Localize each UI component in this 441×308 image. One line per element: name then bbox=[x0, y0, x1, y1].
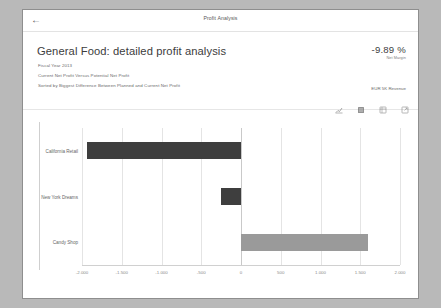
y-axis-line bbox=[39, 122, 40, 270]
sort-icon[interactable] bbox=[335, 106, 343, 114]
kpi-revenue: EUR 5K Revenue bbox=[371, 86, 406, 91]
kpi-net-margin: -9.89 % Net Margin bbox=[372, 44, 406, 60]
category-label: New York Dreams bbox=[41, 194, 78, 199]
report-page: ← Profit Analysis General Food: detailed… bbox=[22, 9, 419, 299]
fullscreen-icon[interactable] bbox=[401, 106, 409, 114]
x-tick-label: -2.000 bbox=[76, 270, 88, 275]
x-tick-label: 0 bbox=[240, 270, 242, 275]
x-tick-label: 2.000 bbox=[395, 270, 406, 275]
window-title: Profit Analysis bbox=[23, 15, 418, 21]
kpi-label: Net Margin bbox=[372, 56, 406, 60]
x-tick-label: -1.500 bbox=[116, 270, 128, 275]
kpi-value: -9.89 % bbox=[372, 44, 406, 55]
x-tick-label: 1.500 bbox=[355, 270, 366, 275]
subtitle-fiscal-year: Fiscal Year 2013 bbox=[38, 63, 72, 68]
bar[interactable] bbox=[241, 234, 368, 251]
x-tick-label: 500 bbox=[277, 270, 284, 275]
report-header: General Food: detailed profit analysis F… bbox=[23, 32, 418, 110]
title-bar: ← Profit Analysis bbox=[23, 10, 418, 32]
bar[interactable] bbox=[221, 188, 241, 205]
gridline bbox=[400, 128, 401, 265]
x-tick-label: -500 bbox=[197, 270, 206, 275]
x-tick-label: -1.000 bbox=[155, 270, 167, 275]
subtitle-comparison: Current Net Profit Versus Potential Net … bbox=[38, 73, 129, 78]
chart-toolbar bbox=[335, 106, 409, 114]
plot-area bbox=[82, 128, 400, 265]
category-label: Candy Shop bbox=[53, 240, 78, 245]
subtitle-sort-order: Sorted by Biggest Difference Between Pla… bbox=[38, 83, 180, 88]
x-axis-line bbox=[82, 265, 400, 266]
profit-bar-chart: California RetailNew York DreamsCandy Sh… bbox=[23, 122, 418, 298]
table-view-icon[interactable] bbox=[379, 106, 387, 114]
bar[interactable] bbox=[87, 142, 241, 159]
category-label: California Retail bbox=[46, 148, 78, 153]
x-tick-label: 1.000 bbox=[315, 270, 326, 275]
filter-icon[interactable] bbox=[357, 106, 365, 114]
gridline bbox=[82, 128, 83, 265]
page-title: General Food: detailed profit analysis bbox=[37, 45, 226, 57]
